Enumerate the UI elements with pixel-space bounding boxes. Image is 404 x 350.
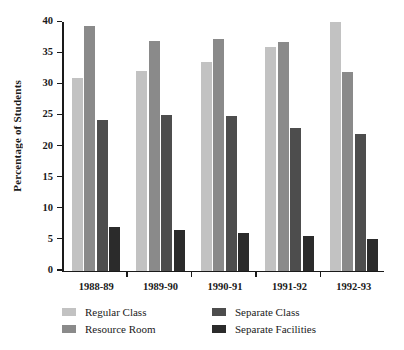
legend-item: Resource Room <box>62 323 212 335</box>
bar <box>226 116 237 270</box>
y-tick-label: 30 <box>43 78 54 89</box>
bar <box>265 47 276 271</box>
y-axis-title: Percentage of Students <box>6 0 28 272</box>
x-tick <box>255 272 257 277</box>
x-tick-label: 1992-93 <box>336 281 371 292</box>
plot-area: 0510152025303540 1988-891989-901990-9119… <box>62 22 384 272</box>
legend-swatch <box>212 308 226 316</box>
legend-item: Separate Class <box>212 306 392 318</box>
bar <box>149 41 160 271</box>
bar <box>213 39 224 271</box>
chart-legend: Regular ClassSeparate ClassResource Room… <box>62 303 392 337</box>
x-axis-line <box>62 271 384 273</box>
legend-item: Separate Facilities <box>212 323 392 335</box>
y-tick-label: 35 <box>43 47 54 58</box>
bar-chart-figure: Percentage of Students 0510152025303540 … <box>0 0 404 350</box>
y-tick: 20 <box>57 145 62 147</box>
x-tick-label: 1990-91 <box>208 281 243 292</box>
y-tick-label: 15 <box>43 171 54 182</box>
y-tick-label: 5 <box>48 233 53 244</box>
y-tick-label: 20 <box>43 140 54 151</box>
y-tick-label: 40 <box>43 16 54 27</box>
legend-swatch <box>62 308 76 316</box>
bar-group: 1990-91 <box>201 22 250 271</box>
x-tick <box>191 272 193 277</box>
legend-label: Resource Room <box>85 323 156 335</box>
bar <box>109 227 120 270</box>
bar <box>136 71 147 270</box>
y-tick: 10 <box>57 207 62 209</box>
bar <box>174 230 185 270</box>
bar <box>201 62 212 270</box>
x-tick-label: 1991-92 <box>272 281 307 292</box>
y-tick: 15 <box>57 176 62 178</box>
bar <box>161 115 172 270</box>
x-tick <box>126 272 128 277</box>
legend-label: Regular Class <box>85 306 146 318</box>
bar-group: 1989-90 <box>136 22 185 271</box>
y-tick-label: 25 <box>43 109 54 120</box>
bar <box>342 72 353 271</box>
bar-group: 1988-89 <box>72 22 121 271</box>
y-tick: 5 <box>57 238 62 240</box>
bar <box>330 22 341 271</box>
legend-label: Separate Class <box>235 306 299 318</box>
legend-label: Separate Facilities <box>235 323 316 335</box>
bar <box>97 120 108 270</box>
x-tick <box>320 272 322 277</box>
legend-swatch <box>62 325 76 333</box>
legend-item: Regular Class <box>62 306 212 318</box>
x-tick-label: 1989-90 <box>143 281 178 292</box>
bar <box>278 42 289 271</box>
y-tick: 35 <box>57 52 62 54</box>
y-axis-line <box>62 22 64 272</box>
y-tick-label: 10 <box>43 202 54 213</box>
bar-group: 1991-92 <box>265 22 314 271</box>
bar <box>238 233 249 270</box>
bar <box>355 134 366 271</box>
y-tick: 25 <box>57 114 62 116</box>
y-tick: 40 <box>57 21 62 23</box>
bar <box>367 239 378 270</box>
bar <box>84 26 95 270</box>
bar-group: 1992-93 <box>330 22 379 271</box>
y-tick: 30 <box>57 83 62 85</box>
bar <box>303 236 314 270</box>
x-tick-label: 1988-89 <box>79 281 114 292</box>
bar <box>290 128 301 271</box>
y-axis-title-text: Percentage of Students <box>11 80 23 192</box>
y-tick: 0 <box>57 269 62 271</box>
legend-swatch <box>212 325 226 333</box>
bar <box>72 78 83 271</box>
y-tick-label: 0 <box>48 265 53 276</box>
